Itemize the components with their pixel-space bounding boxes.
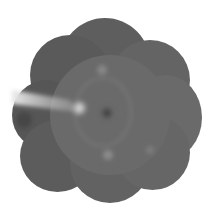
fundus-montage	[0, 0, 215, 214]
retinal-montage-image	[0, 0, 215, 214]
